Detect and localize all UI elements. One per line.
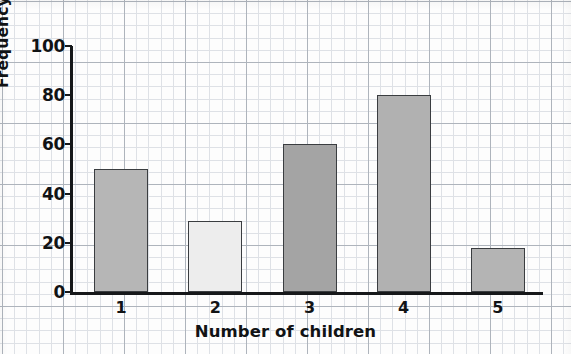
bar-2 [188,221,242,292]
y-tick-mark-80 [65,94,72,96]
x-axis-line [70,292,543,295]
x-tick-label-4: 4 [398,298,409,317]
plot-area: 020406080100 12345 [72,46,543,292]
x-tick-label-5: 5 [492,298,503,317]
y-tick-mark-0 [65,291,72,293]
y-tick-label-40: 40 [42,184,65,204]
x-tick-label-3: 3 [304,298,315,317]
bar-5 [471,248,525,292]
bar-1 [94,169,148,292]
x-tick-label-1: 1 [116,298,127,317]
y-tick-mark-60 [65,143,72,145]
bar-chart-screenshot: 020406080100 12345 Frequency Number of c… [0,0,571,354]
y-tick-label-60: 60 [42,134,65,154]
bar-3 [283,144,337,292]
y-tick-mark-40 [65,193,72,195]
y-tick-mark-100 [65,45,72,47]
y-axis-title: Frequency [0,0,12,88]
x-tick-label-2: 2 [210,298,221,317]
bar-4 [377,95,431,292]
y-tick-mark-20 [65,242,72,244]
y-tick-label-100: 100 [30,36,65,56]
y-axis-line [70,46,73,294]
y-tick-label-20: 20 [42,233,65,253]
y-tick-label-0: 0 [53,282,65,302]
y-tick-label-80: 80 [42,85,65,105]
x-axis-title: Number of children [0,322,571,341]
